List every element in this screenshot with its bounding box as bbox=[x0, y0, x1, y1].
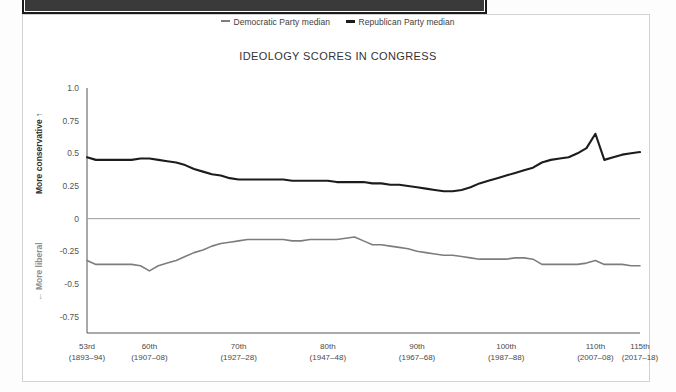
x-axis-tick-congress: 110th bbox=[586, 342, 605, 351]
ideology-scores-line-chart: 1.00.750.50.250-0.25-0.5-0.75 53rd(1893–… bbox=[0, 0, 676, 392]
y-axis-ticks: 1.00.750.50.250-0.25-0.5-0.75 bbox=[60, 83, 80, 322]
plot-axis-frame bbox=[87, 88, 640, 333]
x-axis-tick-years: (1893–94) bbox=[69, 353, 106, 362]
x-axis-tick-congress: 90th bbox=[409, 342, 425, 351]
x-axis-tick-years: (1967–68) bbox=[399, 353, 436, 362]
x-axis-tick-years: (1987–88) bbox=[488, 353, 525, 362]
series-line-democratic bbox=[87, 237, 640, 271]
y-axis-tick-label: -0.5 bbox=[64, 279, 79, 289]
x-axis-tick-congress: 60th bbox=[142, 342, 158, 351]
x-axis-tick-years: (2007–08) bbox=[577, 353, 614, 362]
y-axis-tick-label: 1.0 bbox=[67, 83, 79, 93]
chart-plot-area: 1.00.750.50.250-0.25-0.5-0.75 53rd(1893–… bbox=[0, 0, 676, 392]
y-axis-tick-label: -0.25 bbox=[60, 246, 80, 256]
y-axis-tick-label: 0.75 bbox=[62, 116, 79, 126]
y-axis-tick-label: -0.75 bbox=[60, 312, 80, 322]
y-axis-tick-label: 0 bbox=[74, 214, 79, 224]
x-axis-tick-years: (1947–48) bbox=[310, 353, 347, 362]
y-axis-caption-liberal: ← More liberal bbox=[34, 242, 44, 301]
series-group bbox=[87, 134, 640, 271]
x-axis-tick-congress: 115th bbox=[630, 342, 649, 351]
x-axis-tick-congress: 53rd bbox=[79, 342, 95, 351]
x-axis-tick-years: (1907–08) bbox=[131, 353, 168, 362]
series-line-republican bbox=[87, 134, 640, 192]
x-axis-tick-years: (2017–18) bbox=[622, 353, 659, 362]
axis-lines bbox=[87, 88, 640, 333]
y-axis-tick-label: 0.25 bbox=[62, 181, 79, 191]
x-axis-tick-congress: 100th bbox=[496, 342, 516, 351]
x-axis-tick-congress: 70th bbox=[231, 342, 247, 351]
y-axis-tick-label: 0.5 bbox=[67, 148, 79, 158]
axis-captions: More conservative ↑← More liberal bbox=[34, 113, 44, 301]
y-axis-caption-conservative: More conservative ↑ bbox=[34, 113, 44, 194]
x-axis-tick-years: (1927–28) bbox=[220, 353, 257, 362]
x-axis-tick-congress: 80th bbox=[320, 342, 336, 351]
x-axis-ticks: 53rd(1893–94)60th(1907–08)70th(1927–28)8… bbox=[69, 342, 659, 362]
